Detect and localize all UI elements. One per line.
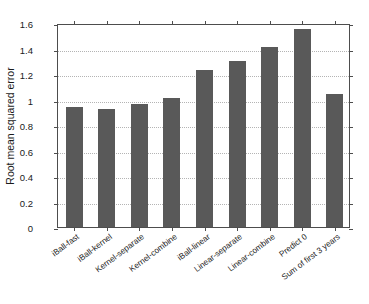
y-axis-tick-mark <box>54 204 58 205</box>
x-axis-tick-mark <box>335 21 336 25</box>
x-axis-tick-mark <box>107 227 108 231</box>
x-axis-tick-label: Sum of first 3 years <box>280 233 341 282</box>
x-axis-tick-mark <box>74 227 75 231</box>
y-axis-tick-label: 0.2 <box>0 199 33 209</box>
y-axis-tick-label: 1.2 <box>0 71 33 81</box>
x-axis-tick-mark <box>205 21 206 25</box>
bar <box>196 70 213 227</box>
bar <box>98 109 115 227</box>
x-axis-tick-mark <box>107 21 108 25</box>
x-axis-tick-mark <box>139 21 140 25</box>
x-axis-tick-mark <box>139 227 140 231</box>
bar <box>294 29 311 227</box>
y-axis-tick-label: 0 <box>0 224 33 234</box>
bar-chart-figure: Root mean squared error 00.20.40.60.811.… <box>0 0 369 304</box>
bar <box>261 47 278 227</box>
y-axis-tick-mark <box>54 229 58 230</box>
y-axis-tick-mark <box>54 25 58 26</box>
y-axis-tick-mark <box>54 153 58 154</box>
bar <box>326 94 343 227</box>
y-axis-tick-mark <box>349 51 353 52</box>
y-axis-tick-mark <box>349 178 353 179</box>
y-axis-tick-mark <box>54 76 58 77</box>
x-axis-tick-mark <box>302 21 303 25</box>
y-axis-tick-mark <box>54 127 58 128</box>
y-axis-tick-mark <box>349 204 353 205</box>
x-axis-tick-mark <box>270 21 271 25</box>
y-axis-tick-label: 1 <box>0 97 33 107</box>
x-axis-tick-mark <box>270 227 271 231</box>
x-axis-tick-mark <box>237 227 238 231</box>
y-axis-tick-mark <box>349 76 353 77</box>
y-axis-tick-label: 0.4 <box>0 173 33 183</box>
x-axis-tick-mark <box>302 227 303 231</box>
y-axis-tick-mark <box>54 51 58 52</box>
x-axis-tick-mark <box>74 21 75 25</box>
x-axis-tick-mark <box>172 227 173 231</box>
x-axis-tick-mark <box>172 21 173 25</box>
y-axis-tick-mark <box>349 102 353 103</box>
x-axis-tick-mark <box>237 21 238 25</box>
x-axis-tick-mark <box>205 227 206 231</box>
plot-area: 00.20.40.60.811.21.41.6 <box>57 24 350 228</box>
bar <box>229 61 246 227</box>
y-axis-tick-label: 0.8 <box>0 122 33 132</box>
y-axis-tick-label: 0.6 <box>0 148 33 158</box>
y-axis-tick-label: 1.4 <box>0 46 33 56</box>
bar <box>131 104 148 227</box>
bar <box>163 98 180 227</box>
y-axis-tick-mark <box>349 153 353 154</box>
y-axis-tick-mark <box>54 178 58 179</box>
y-axis-tick-mark <box>349 127 353 128</box>
y-axis-tick-mark <box>349 25 353 26</box>
y-axis-tick-mark <box>349 229 353 230</box>
bar <box>66 107 83 227</box>
y-axis-tick-label: 1.6 <box>0 20 33 30</box>
x-axis-tick-mark <box>335 227 336 231</box>
y-axis-tick-mark <box>54 102 58 103</box>
